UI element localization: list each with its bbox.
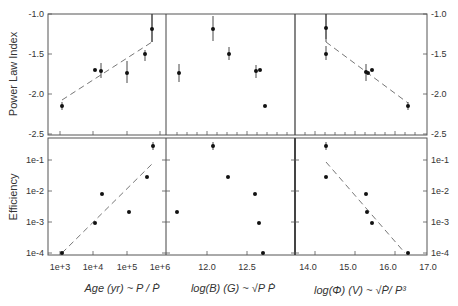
svg-text:-1.5: -1.5 [28,49,44,59]
y-ticks-top [48,14,427,134]
svg-text:1e+3: 1e+3 [50,262,70,272]
svg-text:1e-2: 1e-2 [26,186,44,196]
svg-text:-1.0: -1.0 [28,9,44,19]
svg-text:17.0: 17.0 [419,262,437,272]
svg-text:1e-4: 1e-4 [26,248,44,258]
y-tick-labels-right: -1.0 -1.5 -2.0 -2.5 1e-1 1e-2 1e-3 1e-4 [431,9,449,258]
svg-text:1e-1: 1e-1 [26,155,44,165]
bottom-panel-frame [48,138,427,255]
x-axis-title-left: Age (yr) ~ P / Ṗ [83,282,160,294]
figure: -1.0 -1.5 -2.0 -2.5 1e-1 1e-2 1e-3 1e-4 … [0,0,458,306]
y-tick-labels-left: -1.0 -1.5 -2.0 -2.5 1e-1 1e-2 1e-3 1e-4 [26,9,44,258]
x-tick-labels: 1e+3 1e+4 1e+5 1e+6 12.0 12.5 14.0 15.0 … [50,262,437,272]
svg-text:-2.0: -2.0 [28,89,44,99]
error-bars [62,14,408,150]
svg-text:1e-3: 1e-3 [431,217,449,227]
x-axis-title-center: log(B) (G) ~ √P Ṗ [191,282,276,294]
svg-text:-1.0: -1.0 [431,9,447,19]
svg-text:1e+4: 1e+4 [83,262,103,272]
y-ticks-bottom [48,160,427,253]
svg-text:1e-1: 1e-1 [431,155,449,165]
svg-text:-2.5: -2.5 [28,129,44,139]
data-points [60,26,410,255]
fit-lines [62,42,408,253]
y-axis-title-bottom: Efficiency [7,173,19,220]
x-axis-title-right: log(Φ) (V) ~ √Ṗ/ P³ [314,284,406,296]
svg-text:1e+6: 1e+6 [150,262,170,272]
svg-text:-2.5: -2.5 [431,129,447,139]
svg-text:1e-3: 1e-3 [26,217,44,227]
svg-text:1e+5: 1e+5 [117,262,137,272]
svg-text:12.5: 12.5 [238,262,256,272]
svg-text:14.0: 14.0 [299,262,317,272]
svg-text:12.0: 12.0 [198,262,216,272]
y-axis-title-top: Power Law Index [7,31,19,116]
svg-text:1e-2: 1e-2 [431,186,449,196]
svg-text:1e-4: 1e-4 [431,248,449,258]
svg-text:16.0: 16.0 [379,262,397,272]
fit-line-connectors [152,14,326,42]
svg-text:15.0: 15.0 [339,262,357,272]
x-ticks [60,131,415,255]
svg-text:-1.5: -1.5 [431,49,447,59]
svg-text:-2.0: -2.0 [431,89,447,99]
